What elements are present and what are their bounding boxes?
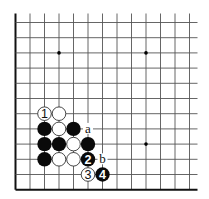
black-stone [37,137,51,151]
move-number: 3 [85,168,92,182]
white-stone-move-1: 1 [38,107,52,121]
black-stone-icon [37,122,51,136]
white-stone-icon [52,107,66,121]
white-stone [67,137,81,151]
black-stone [37,122,51,136]
white-stone [52,122,66,136]
move-number: 1 [41,107,48,121]
black-stone-move-2: 2 [81,152,95,167]
black-stone-icon [37,137,51,151]
black-stone [37,152,51,166]
black-stone-icon [52,137,66,151]
black-stone-icon [81,137,95,151]
go-board: ab 1234 [0,0,209,199]
black-stone [81,137,95,151]
black-stone [66,122,80,136]
black-stone-icon [37,152,51,166]
white-stone [67,153,81,167]
star-point [57,51,61,55]
black-stone-icon [66,122,80,136]
white-stone-icon [52,153,66,167]
white-stone-icon [67,137,81,151]
black-stone [52,137,66,151]
white-stone [52,107,66,121]
star-point [144,142,148,146]
move-number: 2 [85,153,92,167]
star-point [144,51,148,55]
white-stone-move-3: 3 [81,168,95,182]
move-number: 4 [99,168,106,182]
white-stone-icon [67,153,81,167]
black-stone-move-4: 4 [95,167,109,182]
point-label-b: b [99,151,106,166]
white-stone [52,153,66,167]
point-label-a: a [85,121,91,136]
white-stone-icon [52,122,66,136]
